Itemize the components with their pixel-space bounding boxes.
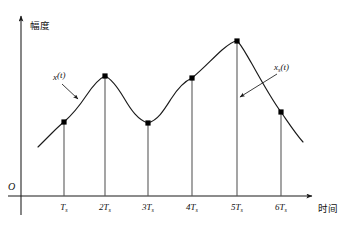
x-tick-label-6: 6Ts [275, 202, 288, 213]
sample-marker-1 [61, 119, 66, 124]
sample-marker-4 [189, 75, 194, 80]
sampling-figure: 幅度 时间 O x(t) [0, 0, 345, 227]
x-tick-6-sub: s [285, 206, 288, 213]
sampled-signal-leader-line [240, 74, 277, 97]
sample-marker-2 [102, 73, 107, 78]
x-axis-label: 时间 [318, 203, 338, 214]
sample-marker-3 [145, 120, 150, 125]
x-tick-5-sub: s [241, 206, 244, 213]
x-tick-2-sub: s [109, 206, 112, 213]
y-axis-label: 幅度 [30, 20, 50, 31]
x-tick-label-4: 4Ts [186, 202, 199, 213]
x-tick-4-sub: s [196, 206, 199, 213]
x-tick-label-3: 3Ts [141, 202, 155, 213]
continuous-signal-label-paren: (t) [57, 70, 66, 80]
stem-group [64, 41, 281, 196]
sampled-signal-label: xs(t) [273, 62, 289, 73]
continuous-signal-curve [38, 41, 303, 147]
continuous-signal-leader-line [62, 84, 78, 99]
sample-marker-group [61, 38, 283, 125]
sampled-signal-label-paren: (t) [280, 62, 289, 72]
sample-marker-5 [234, 38, 239, 43]
continuous-signal-annotation: x(t) [52, 70, 78, 99]
sampled-signal-annotation: xs(t) [240, 62, 289, 97]
x-tick-1-sub: s [65, 206, 68, 213]
x-tick-3-sub: s [152, 206, 155, 213]
x-tick-label-1: Ts [60, 202, 68, 213]
x-tick-label-2: 2Ts [99, 202, 112, 213]
figure-canvas: 幅度 时间 O x(t) [0, 0, 345, 227]
sample-marker-6 [278, 109, 283, 114]
origin-label: O [8, 181, 15, 192]
x-tick-label-group: Ts 2Ts 3Ts 4Ts 5Ts 6Ts [60, 202, 287, 213]
continuous-signal-label: x(t) [52, 70, 66, 82]
x-tick-label-5: 5Ts [231, 202, 244, 213]
